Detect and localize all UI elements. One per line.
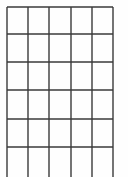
grid-line-group <box>7 7 113 177</box>
grid-figure <box>0 0 128 177</box>
grid-canvas <box>0 0 128 177</box>
